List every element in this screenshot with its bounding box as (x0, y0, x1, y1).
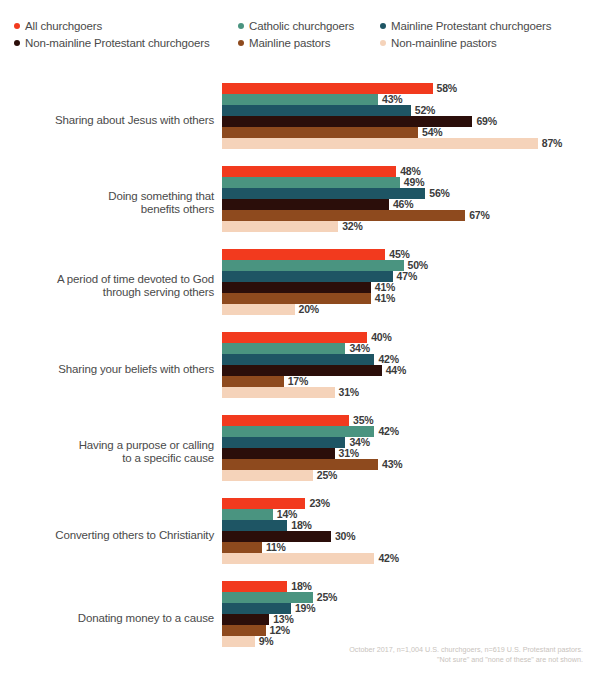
category-label-line: Donating money to a cause (14, 611, 214, 624)
bar-all-churchgoers[interactable] (222, 332, 367, 343)
bar-mainline-pastors[interactable] (222, 542, 262, 553)
legend-item-non-mainline-pastors[interactable]: Non-mainline pastors (380, 37, 497, 49)
legend-item-mainline-pastors[interactable]: Mainline pastors (238, 37, 380, 49)
bar-catholic-churchgoers[interactable] (222, 343, 345, 354)
bar-value-label: 44% (386, 365, 406, 376)
bar-mainline-protestant-churchgoers[interactable] (222, 354, 374, 365)
bar-group: Having a purpose or callingto a specific… (0, 410, 593, 493)
category-label-line: Sharing about Jesus with others (14, 113, 214, 126)
bar-value-label: 30% (335, 531, 355, 542)
bar-row: 20% (222, 304, 593, 315)
category-label: Having a purpose or callingto a specific… (14, 439, 214, 465)
bar-mainline-pastors[interactable] (222, 293, 371, 304)
bar-stack: 58%43%52%69%54%87% (222, 83, 593, 149)
bar-all-churchgoers[interactable] (222, 166, 396, 177)
bar-non-mainline-protestant-churchgoers[interactable] (222, 282, 371, 293)
bar-group: Converting others to Christianity23%14%1… (0, 493, 593, 576)
bar-value-label: 47% (397, 271, 417, 282)
legend-dot-catholic-churchgoers (238, 23, 244, 29)
category-label-line: Having a purpose or calling (14, 439, 214, 452)
legend-item-mainline-protestant-churchgoers[interactable]: Mainline Protestant churchgoers (380, 20, 551, 32)
bar-row: 12% (222, 625, 593, 636)
bar-non-mainline-pastors[interactable] (222, 636, 255, 647)
bar-row: 32% (222, 221, 593, 232)
bar-row: 42% (222, 354, 593, 365)
bar-row: 47% (222, 271, 593, 282)
bar-non-mainline-pastors[interactable] (222, 387, 335, 398)
bar-value-label: 31% (339, 448, 359, 459)
category-label: Donating money to a cause (14, 611, 214, 624)
bar-value-label: 11% (266, 542, 286, 553)
footnote-line-2: "Not sure" and "none of these" are not s… (283, 655, 583, 665)
bar-non-mainline-pastors[interactable] (222, 553, 374, 564)
bar-value-label: 32% (342, 221, 362, 232)
bar-group: Sharing your beliefs with others40%34%42… (0, 327, 593, 410)
bar-value-label: 42% (378, 426, 398, 437)
bar-row: 44% (222, 365, 593, 376)
bar-value-label: 31% (339, 387, 359, 398)
bar-mainline-protestant-churchgoers[interactable] (222, 271, 393, 282)
bar-stack: 35%42%34%31%43%25% (222, 415, 593, 481)
bar-mainline-protestant-churchgoers[interactable] (222, 105, 411, 116)
category-label-line: to a specific cause (14, 452, 214, 465)
bar-row: 34% (222, 437, 593, 448)
bar-value-label: 52% (415, 105, 435, 116)
bar-mainline-protestant-churchgoers[interactable] (222, 437, 345, 448)
bar-non-mainline-pastors[interactable] (222, 221, 338, 232)
bar-value-label: 69% (476, 116, 496, 127)
bar-catholic-churchgoers[interactable] (222, 94, 378, 105)
bar-row: 42% (222, 426, 593, 437)
legend-row: Non-mainline Protestant churchgoersMainl… (14, 37, 585, 49)
bar-mainline-pastors[interactable] (222, 376, 284, 387)
bar-row: 40% (222, 332, 593, 343)
bar-row: 18% (222, 520, 593, 531)
bar-non-mainline-protestant-churchgoers[interactable] (222, 448, 335, 459)
bar-all-churchgoers[interactable] (222, 249, 385, 260)
category-label-line: benefits others (14, 203, 214, 216)
chart-footnote: October 2017, n=1,004 U.S. churchgoers, … (283, 645, 583, 664)
bar-value-label: 56% (429, 188, 449, 199)
legend-item-non-mainline-protestant-churchgoers[interactable]: Non-mainline Protestant churchgoers (14, 37, 238, 49)
bar-catholic-churchgoers[interactable] (222, 177, 400, 188)
category-label-line: through serving others (14, 286, 214, 299)
bar-all-churchgoers[interactable] (222, 415, 349, 426)
bar-value-label: 87% (542, 138, 562, 149)
bar-value-label: 20% (299, 304, 319, 315)
bar-mainline-pastors[interactable] (222, 127, 418, 138)
bar-row: 18% (222, 581, 593, 592)
bar-stack: 23%14%18%30%11%42% (222, 498, 593, 564)
bar-mainline-pastors[interactable] (222, 459, 378, 470)
bar-value-label: 25% (317, 592, 337, 603)
bar-stack: 40%34%42%44%17%31% (222, 332, 593, 398)
bar-catholic-churchgoers[interactable] (222, 509, 273, 520)
bar-all-churchgoers[interactable] (222, 581, 287, 592)
bar-non-mainline-protestant-churchgoers[interactable] (222, 199, 389, 210)
legend-label: Non-mainline Protestant churchgoers (25, 37, 210, 49)
bar-non-mainline-pastors[interactable] (222, 470, 313, 481)
bar-row: 41% (222, 282, 593, 293)
bar-non-mainline-protestant-churchgoers[interactable] (222, 614, 269, 625)
legend-row: All churchgoersCatholic churchgoersMainl… (14, 20, 585, 32)
bar-group: Doing something thatbenefits others48%49… (0, 161, 593, 244)
bar-catholic-churchgoers[interactable] (222, 260, 404, 271)
legend-item-catholic-churchgoers[interactable]: Catholic churchgoers (238, 20, 380, 32)
bar-mainline-protestant-churchgoers[interactable] (222, 520, 287, 531)
legend-dot-mainline-pastors (238, 40, 244, 46)
bar-stack: 48%49%56%46%67%32% (222, 166, 593, 232)
bar-row: 35% (222, 415, 593, 426)
bar-value-label: 23% (309, 498, 329, 509)
bar-row: 43% (222, 94, 593, 105)
bar-value-label: 18% (291, 520, 311, 531)
category-label: Doing something thatbenefits others (14, 190, 214, 216)
legend-dot-mainline-protestant-churchgoers (380, 23, 386, 29)
bar-stack: 45%50%47%41%41%20% (222, 249, 593, 315)
bar-row: 67% (222, 210, 593, 221)
legend-item-all-churchgoers[interactable]: All churchgoers (14, 20, 238, 32)
bar-non-mainline-pastors[interactable] (222, 304, 295, 315)
bar-non-mainline-pastors[interactable] (222, 138, 538, 149)
bar-row: 17% (222, 376, 593, 387)
bar-value-label: 40% (371, 332, 391, 343)
bar-value-label: 58% (437, 83, 457, 94)
bar-row: 69% (222, 116, 593, 127)
bar-value-label: 19% (295, 603, 315, 614)
